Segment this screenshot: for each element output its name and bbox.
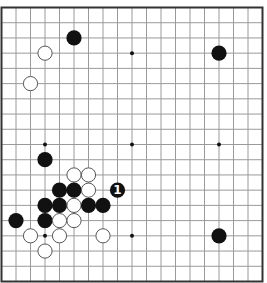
white-stone	[52, 229, 66, 243]
star-point	[43, 234, 47, 238]
white-stone	[81, 168, 95, 182]
white-stone	[67, 168, 81, 182]
white-stone	[67, 214, 81, 228]
star-point	[217, 143, 221, 147]
black-stone	[52, 198, 67, 213]
black-stone	[37, 152, 52, 167]
move-number-label: 1	[113, 183, 121, 197]
black-stone	[81, 198, 96, 213]
black-stone	[37, 198, 52, 213]
go-board: 1	[0, 0, 267, 283]
white-stone	[52, 214, 66, 228]
white-stone	[23, 229, 37, 243]
star-point	[130, 143, 134, 147]
star-point	[43, 143, 47, 147]
black-stone: 1	[110, 183, 125, 198]
white-stone	[81, 183, 95, 197]
star-point	[130, 234, 134, 238]
star-point	[130, 51, 134, 55]
white-stone	[38, 244, 52, 258]
white-stone	[67, 198, 81, 212]
black-stone	[37, 213, 52, 228]
white-stone	[38, 46, 52, 60]
black-stone	[211, 46, 226, 61]
black-stone	[66, 183, 81, 198]
black-stone	[8, 213, 23, 228]
black-stone	[66, 30, 81, 45]
black-stone	[211, 228, 226, 243]
white-stone	[96, 229, 110, 243]
white-stone	[23, 77, 37, 91]
black-stone	[52, 183, 67, 198]
black-stone	[95, 198, 110, 213]
